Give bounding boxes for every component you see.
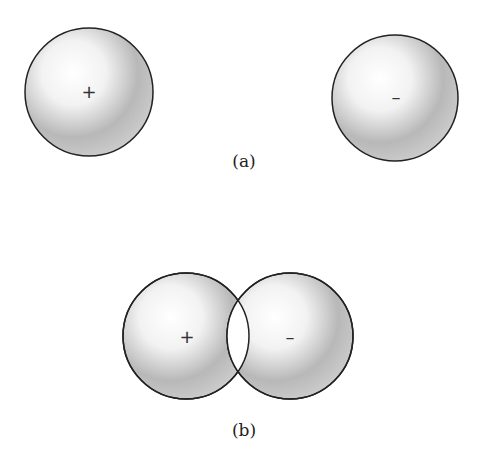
panel-label-a: (a) bbox=[232, 151, 255, 171]
plus-sign-b: + bbox=[179, 326, 194, 347]
panel-label-b: (b) bbox=[232, 420, 256, 440]
plus-sign-a: + bbox=[81, 81, 96, 102]
minus-sign-a: – bbox=[392, 86, 401, 107]
minus-sign-b: – bbox=[286, 326, 295, 347]
spheres-diagram bbox=[0, 0, 486, 449]
